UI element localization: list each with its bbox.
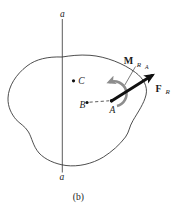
mechanics-diagram: a a C B A M R A F R (b) <box>0 0 172 212</box>
force-subscript: R <box>164 88 170 96</box>
point-dot-b <box>85 101 88 104</box>
moment-subscript: R <box>136 61 142 69</box>
figure-caption: (b) <box>73 192 84 203</box>
force-symbol: F <box>156 83 162 94</box>
figure-panel: a a C B A M R A F R (b) <box>0 0 172 212</box>
point-label-c: C <box>78 76 85 86</box>
moment-subsubscript: A <box>144 64 149 70</box>
point-dot-a <box>110 99 113 102</box>
point-label-b: B <box>79 100 85 110</box>
point-dot-c <box>72 79 75 82</box>
force-label: F R <box>156 78 171 97</box>
axis-label-bottom: a <box>59 172 64 182</box>
dashed-line-b-to-a <box>90 101 110 102</box>
body-outline <box>8 55 146 166</box>
moment-symbol: M <box>124 55 134 66</box>
axis-label-top: a <box>60 9 65 19</box>
point-label-a: A <box>108 105 115 115</box>
